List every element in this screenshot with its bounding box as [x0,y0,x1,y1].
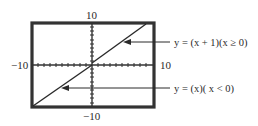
y-axis-min-label: −10 [83,111,100,122]
series-upper-piece-line [92,24,146,63]
x-axis-min-label: −10 [11,60,28,71]
annotation-upper-piece: y = (x + 1)(x ≥ 0) [174,37,248,48]
series-lower-piece-line [33,65,92,106]
y-axis-max-label: 10 [86,10,97,21]
annotation-lower-piece: y = (x)( x < 0) [174,83,234,94]
piecewise-function-graph: 10 −10 −10 10 y = (x + 1)(x ≥ 0) y = (x)… [0,0,258,126]
plot-canvas [0,0,258,126]
x-axis-max-label: 10 [160,60,171,71]
annotation-arrow-upper [123,39,170,45]
